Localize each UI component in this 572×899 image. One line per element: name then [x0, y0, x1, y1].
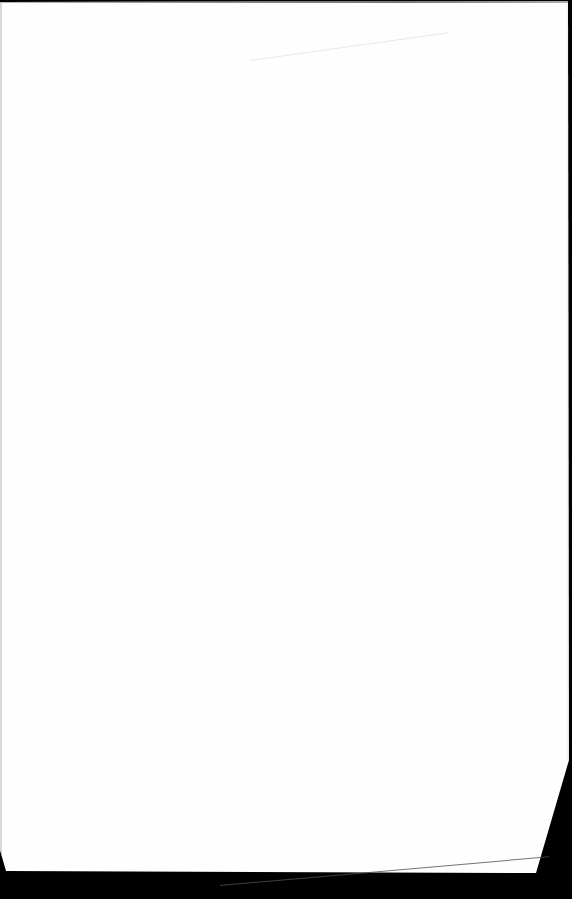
left-edge-shadow — [0, 0, 2, 871]
blank-paper-sheet — [0, 0, 572, 899]
right-edge-shadow — [566, 0, 570, 760]
top-edge-shadow — [0, 0, 572, 3]
scanned-page-viewport — [0, 0, 572, 899]
scan-streak — [250, 32, 448, 61]
